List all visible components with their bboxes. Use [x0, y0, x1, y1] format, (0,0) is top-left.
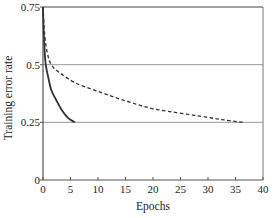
x-tick-label: 25 [175, 183, 187, 195]
x-tick-label: 20 [148, 183, 160, 195]
x-tick-label: 15 [120, 183, 132, 195]
x-tick-label: 35 [230, 183, 242, 195]
x-tick-label: 0 [40, 183, 46, 195]
y-axis-ticks: 00.250.50.75 [21, 1, 43, 186]
y-tick-label: 0.25 [21, 116, 41, 128]
y-axis-label: Training error rate [2, 56, 15, 141]
x-tick-label: 5 [68, 183, 74, 195]
line-chart: 0510152025303540 00.250.50.75 Epochs Tra… [0, 0, 275, 218]
grid-lines [43, 7, 263, 122]
x-tick-label: 10 [93, 183, 105, 195]
y-tick-label: 0.5 [26, 59, 40, 71]
x-tick-label: 30 [203, 183, 215, 195]
y-tick-label: 0 [35, 174, 41, 186]
x-axis-label: Epochs [136, 200, 170, 213]
x-tick-label: 40 [258, 183, 270, 195]
axes [43, 7, 263, 180]
y-tick-label: 0.75 [21, 1, 41, 13]
